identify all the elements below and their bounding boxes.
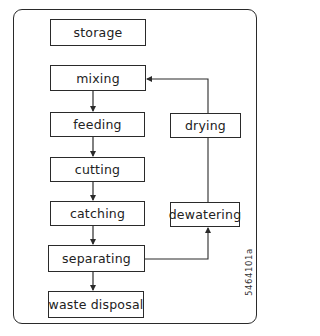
box-storage: storage [50,19,146,46]
box-feeding: feeding [50,112,145,137]
box-catching: catching [50,201,145,226]
box-cutting: cutting [50,157,145,182]
box-separating: separating [48,245,145,272]
figure-code: 5464101a [244,248,254,296]
box-drying: drying [170,113,241,138]
arrow-drying-mixing [147,79,208,113]
box-dewatering: dewatering [170,202,240,227]
arrow-separating-dewatering [145,228,208,259]
box-waste-disposal: waste disposal [48,291,144,318]
box-mixing: mixing [50,65,146,91]
